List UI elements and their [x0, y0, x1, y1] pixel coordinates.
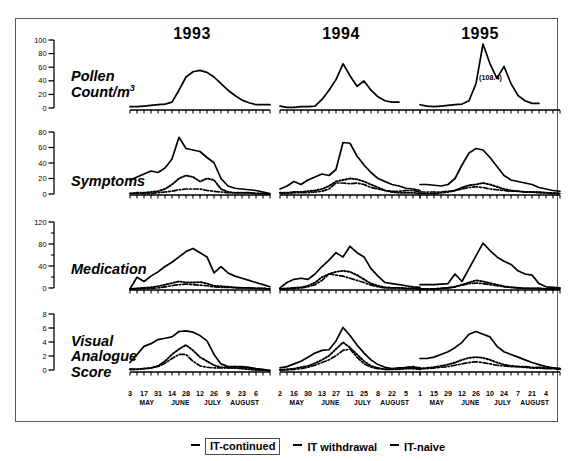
x-tick-day-label: 17 [137, 389, 151, 398]
legend-label-it-continued: IT-continued [205, 438, 280, 455]
x-tick-day-label: 21 [525, 389, 539, 398]
series-line-it-continued [280, 246, 420, 288]
pollen-peak-annotation-1995: (108.4) [479, 73, 502, 82]
legend-dash-icon-it-naive [390, 444, 399, 447]
row-label-vas-line3: Score [71, 364, 111, 380]
x-axis-month-label: JULY [485, 399, 521, 406]
panel-pollen-1994 [278, 41, 426, 123]
y-axis-vas: 86420 [24, 311, 68, 373]
y-tick-label: 80 [38, 128, 46, 137]
y-tick-label: 40 [38, 159, 46, 168]
x-tick-day-label: 31 [151, 389, 165, 398]
x-tick-day-label: 14 [165, 389, 179, 398]
x-tick-day-label: 7 [511, 389, 525, 398]
y-tick-label: 80 [38, 240, 46, 249]
y-tick-label: 60 [38, 63, 46, 72]
y-tick-label: 40 [38, 76, 46, 85]
row-label-pollen-count: Pollen Count/m3 [71, 69, 135, 101]
series-line-it-withdrawal [130, 176, 270, 195]
x-tick-day-label: 3 [123, 389, 137, 398]
x-tick-day-label: 12 [193, 389, 207, 398]
x-tick-day-label: 12 [455, 389, 469, 398]
x-tick-day-label: 23 [235, 389, 249, 398]
x-tick-day-label: 15 [427, 389, 441, 398]
y-tick-label: 0 [42, 284, 46, 293]
y-tick-label: 120 [34, 218, 46, 227]
panel-medication-1993 [128, 223, 276, 303]
legend-dash-icon-it-continued [191, 444, 200, 447]
x-axis-month-label: MAY [279, 399, 315, 406]
x-tick-day-label: 25 [357, 389, 371, 398]
y-tick-label: 4 [42, 338, 46, 347]
x-axis-month-label: JULY [195, 399, 231, 406]
x-axis-month-label: JUNE [162, 399, 198, 406]
x-tick-day-label: 8 [371, 389, 385, 398]
y-tick-label: 20 [38, 174, 46, 183]
x-axis-month-label: AUGUST [517, 399, 553, 406]
legend-item-it-continued[interactable]: IT-continued [191, 438, 280, 455]
x-tick-day-label: 24 [497, 389, 511, 398]
y-axis-pollen: 100806040200 [24, 37, 68, 111]
y-tick-label: 0 [42, 104, 46, 113]
x-tick-day-label: 4 [539, 389, 553, 398]
panel-symptoms-1995 [418, 132, 566, 208]
x-tick-day-label: 11 [343, 389, 357, 398]
y-tick-label: 8 [42, 310, 46, 319]
x-tick-day-label: 9 [221, 389, 235, 398]
legend-item-it-withdrawal[interactable]: IT withdrawal [293, 441, 377, 453]
x-tick-day-label: 16 [287, 389, 301, 398]
series-line-it-continued [130, 331, 270, 371]
y-axis-medication: 12080400 [24, 219, 68, 291]
x-tick-day-label: 10 [483, 389, 497, 398]
series-line-it-withdrawal [280, 342, 420, 370]
panel-symptoms-1994 [278, 132, 426, 208]
series-line-it-withdrawal [280, 271, 420, 289]
panel-pollen-1993 [128, 41, 276, 123]
x-axis-month-label: JULY [345, 399, 381, 406]
y-axis-symptoms: 806040200 [24, 129, 68, 197]
x-tick-day-label: 30 [301, 389, 315, 398]
y-tick-label: 100 [34, 36, 46, 45]
x-axis-month-label: AUGUST [227, 399, 263, 406]
row-label-pollen-line1: Pollen [71, 68, 115, 84]
y-tick-label: 60 [38, 143, 46, 152]
x-tick-day-label: 27 [329, 389, 343, 398]
x-tick-day-label: 29 [441, 389, 455, 398]
x-tick-day-label: 13 [315, 389, 329, 398]
series-line-it-continued [420, 243, 560, 288]
panel-medication-1995 [418, 223, 566, 303]
x-tick-day-label: 5 [399, 389, 413, 398]
row-label-pollen-line2: Count/m [71, 84, 130, 100]
series-line-pollen-count [280, 64, 399, 108]
x-tick-day-label: 6 [249, 389, 263, 398]
panel-vas-1995 [418, 315, 566, 385]
x-axis-month-label: JUNE [452, 399, 488, 406]
y-tick-label: 2 [42, 352, 46, 361]
figure-frame: 1993 1994 1995 Pollen Count/m3 Symptoms … [15, 18, 558, 422]
legend-label-it-withdrawal: IT withdrawal [307, 441, 377, 453]
y-tick-label: 40 [38, 262, 46, 271]
legend-item-it-naive[interactable]: IT-naive [390, 441, 445, 453]
panel-vas-1994 [278, 315, 426, 385]
x-axis-month-label: MAY [129, 399, 165, 406]
series-line-pollen-count [130, 70, 270, 106]
y-tick-label: 0 [42, 366, 46, 375]
x-tick-day-label: 22 [385, 389, 399, 398]
series-line-it-continued [130, 137, 270, 193]
y-tick-label: 20 [38, 90, 46, 99]
y-tick-label: 0 [42, 190, 46, 199]
x-axis-month-label: MAY [419, 399, 455, 406]
x-tick-day-label: 28 [179, 389, 193, 398]
x-tick-day-label: 26 [207, 389, 221, 398]
y-tick-label: 6 [42, 324, 46, 333]
legend-dash-icon-it-withdrawal [293, 444, 302, 447]
x-tick-day-label: 26 [469, 389, 483, 398]
x-tick-day-label: 2 [273, 389, 287, 398]
row-label-vas-line1: Visual [71, 333, 113, 349]
y-tick-label: 80 [38, 49, 46, 58]
legend-label-it-naive: IT-naive [404, 441, 445, 453]
panel-symptoms-1993 [128, 132, 276, 208]
panel-pollen-1995 [418, 41, 566, 123]
legend: IT-continued IT withdrawal IT-naive [191, 438, 445, 455]
x-tick-day-label: 1 [413, 389, 427, 398]
